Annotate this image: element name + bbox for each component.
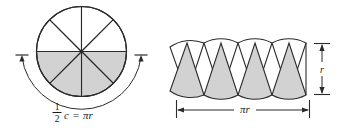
height-dimension-r: r [314, 44, 330, 95]
shaded-sectors [37, 52, 127, 97]
fraction-numerator: 1 [55, 102, 60, 112]
label-circumference-variable: c [64, 109, 69, 121]
circle-center-point [80, 50, 83, 53]
unshaded-sectors [37, 7, 127, 52]
height-arrowhead-top [319, 44, 324, 51]
arc-arrowhead-right [138, 55, 143, 62]
width-arrowhead-right [302, 107, 309, 112]
height-arrowhead-bottom [319, 87, 324, 94]
width-label-pir: πr [240, 103, 251, 115]
sector-strip-group [170, 39, 306, 100]
figure-container: 1 2 c = πr [0, 0, 343, 128]
label-equals-sign: = [73, 109, 79, 121]
sectored-circle-group [37, 7, 127, 97]
width-arrowhead-left [177, 107, 184, 112]
fraction-denominator: 2 [55, 114, 60, 124]
height-label-r: r [320, 64, 324, 75]
width-dimension-pir: πr [177, 100, 310, 118]
label-pi-r-result: πr [83, 109, 94, 121]
half-circumference-label: 1 2 c = πr [53, 102, 94, 124]
arc-arrowhead-left [19, 55, 24, 62]
geometry-figure: 1 2 c = πr [0, 0, 343, 128]
